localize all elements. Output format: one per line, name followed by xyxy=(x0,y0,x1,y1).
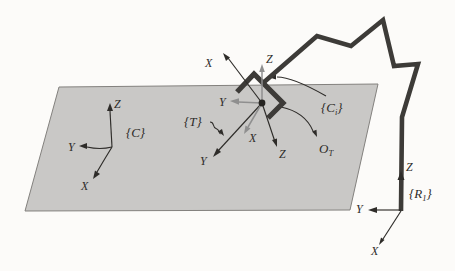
frame-r1-x-label: X xyxy=(370,244,379,258)
frame-c1-label: {Ci} xyxy=(321,100,343,117)
frame-t-x-label: X xyxy=(204,56,213,70)
frame-c1-y-axis xyxy=(238,102,262,103)
frame-r1-x-axis xyxy=(383,211,401,239)
frame-t-label: {T} xyxy=(184,114,202,129)
frame-c-z-label: Z xyxy=(114,97,121,111)
frame-r1-label: {R1} xyxy=(409,186,432,203)
diagram-canvas: {C} Z Y X {T} X Y Z Z Y X {Ci} OT {R1} Z… xyxy=(0,0,455,271)
frame-c-label: {C} xyxy=(126,125,146,140)
frame-r1-y-label: Y xyxy=(356,202,364,216)
frame-c1-z-arrowhead-icon xyxy=(259,64,265,72)
frame-t-z-label: Z xyxy=(279,147,286,161)
frame-c1-z-label: Z xyxy=(266,52,273,66)
frame-c-x-label: X xyxy=(80,179,89,193)
frame-r1-y-arrowhead-icon xyxy=(368,207,377,213)
frame-r1-z-label: Z xyxy=(406,160,413,174)
frame-c1-x-label: X xyxy=(248,131,257,145)
tool-origin-dot xyxy=(259,100,266,107)
coordinate-frames-diagram: {C} Z Y X {T} X Y Z Z Y X {Ci} OT {R1} Z… xyxy=(0,0,455,271)
